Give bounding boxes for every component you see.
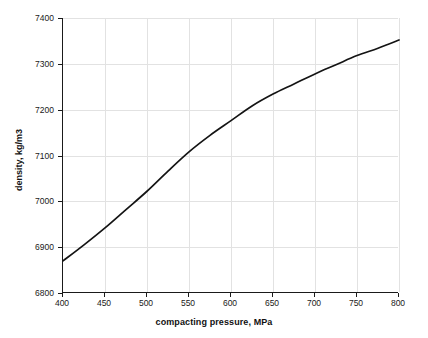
x-tick-label: 450	[84, 298, 124, 308]
gridline-vertical	[399, 18, 400, 292]
y-tick-label: 6800	[20, 288, 54, 298]
y-tick	[58, 156, 62, 157]
x-tick	[272, 293, 273, 297]
x-tick-label: 600	[210, 298, 250, 308]
x-tick	[188, 293, 189, 297]
y-tick-label: 7400	[20, 13, 54, 23]
y-tick-label: 7100	[20, 151, 54, 161]
x-tick-label: 700	[294, 298, 334, 308]
x-axis-title: compacting pressure, MPa	[0, 317, 428, 327]
y-tick-label: 7000	[20, 196, 54, 206]
x-tick	[356, 293, 357, 297]
y-axis-title: density, kg/m3	[14, 85, 24, 235]
density-curve	[63, 40, 399, 261]
x-tick-label: 550	[168, 298, 208, 308]
x-tick	[62, 293, 63, 297]
x-tick-label: 800	[378, 298, 418, 308]
data-series-layer	[63, 18, 399, 293]
y-tick	[58, 201, 62, 202]
plot-area	[62, 18, 398, 293]
x-tick	[230, 293, 231, 297]
x-tick-label: 500	[126, 298, 166, 308]
x-tick-label: 650	[252, 298, 292, 308]
y-tick	[58, 293, 62, 294]
chart-figure: 4004505005506006507007508006800690070007…	[0, 0, 428, 338]
y-tick-label: 6900	[20, 242, 54, 252]
x-tick	[398, 293, 399, 297]
y-tick-label: 7200	[20, 105, 54, 115]
y-tick	[58, 110, 62, 111]
x-tick	[146, 293, 147, 297]
y-tick	[58, 18, 62, 19]
x-tick	[314, 293, 315, 297]
y-tick	[58, 247, 62, 248]
x-tick-label: 400	[42, 298, 82, 308]
y-tick-label: 7300	[20, 59, 54, 69]
y-tick	[58, 64, 62, 65]
x-tick	[104, 293, 105, 297]
x-tick-label: 750	[336, 298, 376, 308]
